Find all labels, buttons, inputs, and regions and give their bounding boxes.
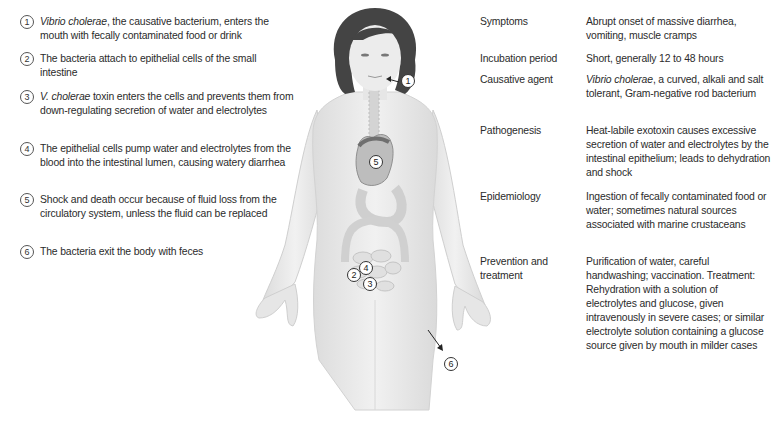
callout-1: 1 (401, 74, 415, 88)
step-number-1: 1 (20, 15, 34, 29)
value-symptoms: Abrupt onset of massive diarrhea, vomiti… (586, 15, 771, 43)
label-symptoms: Symptoms (480, 15, 580, 29)
step-1: 1 Vibrio cholerae, the causative bacteri… (20, 15, 295, 43)
value-pathogenesis: Heat-labile exotoxin causes excessive se… (586, 124, 771, 180)
organism-name: Vibrio cholerae (40, 16, 107, 27)
step-number-4: 4 (20, 142, 34, 156)
value-epidemiology: Ingestion of fecally contaminated food o… (586, 190, 771, 232)
callout-4: 4 (359, 261, 373, 275)
callout-6: 6 (444, 357, 458, 371)
value-incubation: Short, generally 12 to 48 hours (586, 52, 771, 66)
human-figure-illustration: 1 5 2 4 3 6 (255, 0, 495, 426)
organism-name: V. cholerae (40, 91, 90, 102)
callout-3: 3 (363, 277, 377, 291)
step-5: 5 Shock and death occur because of fluid… (20, 193, 295, 221)
callout-5: 5 (369, 155, 383, 169)
label-pathogenesis: Pathogenesis (480, 124, 580, 138)
value-causative-agent: Vibrio cholerae, a curved, alkali and sa… (586, 73, 771, 101)
step-number-2: 2 (20, 52, 34, 66)
value-prevention: Purification of water, careful handwashi… (586, 255, 771, 353)
label-prevention: Prevention and treatment (480, 255, 580, 283)
label-epidemiology: Epidemiology (480, 190, 580, 204)
step-number-3: 3 (20, 90, 34, 104)
label-incubation: Incubation period (480, 52, 580, 66)
step-3: 3 V. cholerae toxin enters the cells and… (20, 90, 295, 118)
organism-name: Vibrio cholerae (586, 74, 653, 85)
label-causative-agent: Causative agent (480, 73, 580, 87)
step-number-5: 5 (20, 193, 34, 207)
step-6: 6 The bacteria exit the body with feces (20, 245, 295, 259)
step-number-6: 6 (20, 245, 34, 259)
body-outline-icon (255, 0, 495, 426)
step-2: 2 The bacteria attach to epithelial cell… (20, 52, 295, 80)
step-4: 4 The epithelial cells pump water and el… (20, 142, 295, 170)
